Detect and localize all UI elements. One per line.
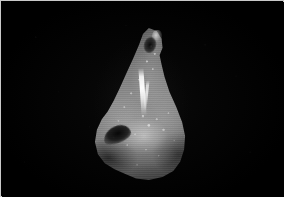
specimen-striation-texture: [92, 28, 190, 180]
specimen-body: [92, 28, 190, 180]
specimen: [92, 28, 190, 180]
specimen-grain-texture: [92, 28, 190, 180]
photo-frame: [0, 0, 284, 197]
photo-canvas: [2, 2, 284, 197]
screenshot-root: [0, 0, 284, 197]
